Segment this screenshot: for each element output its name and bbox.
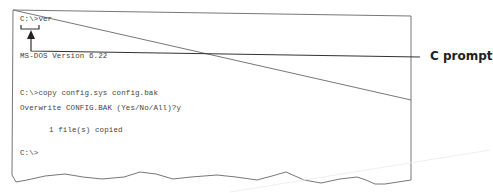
terminal-line-version: MS-DOS Version 6.22	[20, 52, 107, 60]
terminal-line-copied: 1 file(s) copied	[49, 126, 123, 134]
arrow-head-icon	[27, 30, 35, 39]
callout-label-c-prompt: C prompt	[430, 49, 493, 63]
terminal-line-copy: C:\>copy config.sys config.bak	[20, 89, 158, 97]
terminal-line-prompt: C:\>	[20, 149, 38, 157]
terminal-line-ver: C:\>ver	[20, 15, 52, 23]
terminal-window-outline	[12, 10, 411, 184]
prompt-bracket	[21, 25, 39, 29]
terminal-line-overwrite: Overwrite CONFIG.BAK (Yes/No/All)?y	[20, 104, 181, 112]
